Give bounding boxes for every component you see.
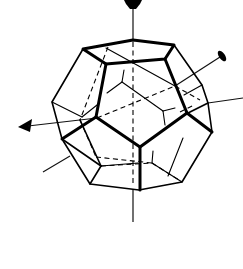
ellipse-axis-marker-icon	[216, 49, 228, 62]
right-axis	[208, 98, 243, 103]
left-axis	[43, 156, 70, 172]
front-thin-edges	[52, 45, 212, 190]
pentagon-axis-marker-icon	[124, 0, 142, 9]
dodecahedron-diagram	[0, 0, 243, 269]
